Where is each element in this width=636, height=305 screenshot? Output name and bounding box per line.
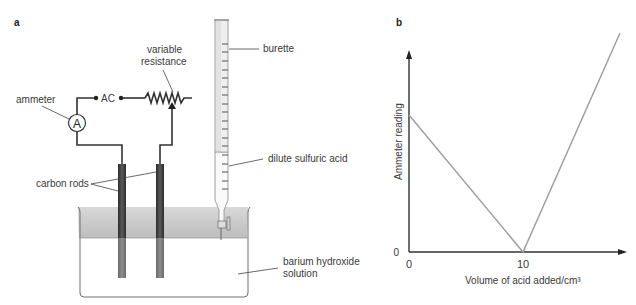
barium-label-line2: solution [283,268,317,279]
ammeter-symbol: A [73,117,81,131]
ac-terminal-right [119,96,123,100]
y-axis-arrow-icon [406,50,412,59]
circuit-wires [77,93,192,164]
dilute-acid-leader [229,159,263,166]
x-tick-10: 10 [517,258,529,270]
burette-label: burette [263,43,295,54]
dilute-acid-label: dilute sulfuric acid [268,153,347,164]
variable-resistance-leader [163,70,173,92]
barium-leader [238,268,278,274]
carbon-rod-left [118,164,126,238]
carbon-rod-right-submerged [156,238,164,278]
panel-a: a AC A ammeter variable resis [14,17,360,297]
panel-b-chart: b 0 0 10 Volume of acid added/cm³ Ammete… [393,17,627,286]
carbon-rod-left-submerged [118,238,126,278]
ammeter-label: ammeter [16,94,56,105]
x-axis-arrow-icon [618,249,627,255]
x-axis-label: Volume of acid added/cm³ [465,275,581,286]
y-axis-label: Ammeter reading [393,103,404,180]
panel-letter-b: b [396,17,402,28]
variable-resistance-label-line1: variable [147,44,182,55]
carbon-rods-label: carbon rods [36,178,89,189]
ammeter-reading-line [409,33,620,252]
ammeter-leader [42,106,69,119]
ac-terminal-left [94,96,98,100]
carbon-rods-leader-1 [91,184,118,191]
ac-label: AC [101,93,115,104]
y-tick-0: 0 [393,247,399,258]
barium-label-line1: barium hydroxide [283,256,360,267]
variable-resistance-label-line2: resistance [141,56,187,67]
carbon-rod-right [156,164,164,238]
figure: a AC A ammeter variable resis [0,0,636,305]
x-tick-0: 0 [406,258,412,270]
panel-letter-a: a [14,17,20,28]
